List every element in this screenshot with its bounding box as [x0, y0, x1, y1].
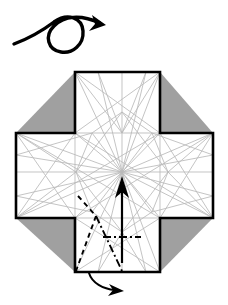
valley-fold-left-lower — [76, 216, 96, 271]
turn-over-symbol — [14, 15, 106, 52]
unfold-curved-arrow — [89, 273, 124, 296]
corner-triangle-top-left — [16, 72, 75, 133]
turn-over-arrowhead-icon — [89, 15, 106, 31]
corner-triangle-bottom-left — [16, 218, 75, 272]
push-up-arrow — [115, 176, 129, 263]
corner-triangle-bottom-right — [160, 218, 213, 272]
corner-triangle-top-right — [160, 72, 213, 133]
turn-over-loop-arrow-icon — [14, 17, 100, 52]
origami-diagram-canvas — [0, 0, 228, 305]
origami-diagram: Origami folding step diagram Turn over /… — [0, 0, 228, 305]
unfold-arrow-shaft — [89, 273, 115, 290]
